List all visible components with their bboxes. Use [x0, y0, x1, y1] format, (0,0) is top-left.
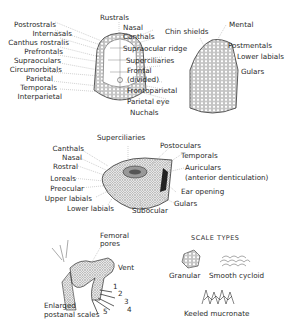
label-rustrals: Rustrals	[100, 14, 129, 22]
label-auriculars: Auriculars	[185, 164, 221, 172]
label-circumorbitals: Circumorbitals	[10, 66, 62, 74]
label-lower-labials: Lower labials	[237, 53, 284, 61]
label-parietal: Parietal	[26, 75, 53, 83]
label-temporals-lateral: Temporals	[181, 152, 218, 160]
label-toe-2: 2	[118, 290, 123, 298]
label-nasal: Nasal	[123, 24, 143, 32]
label-parietal-eye: Parietal eye	[127, 98, 169, 106]
label-toe-1: 1	[113, 283, 118, 291]
label-nasal-lateral: Nasal	[62, 154, 82, 162]
label-postmentals: Postmentals	[228, 42, 272, 50]
label-enlarged: Enlarged	[44, 302, 76, 310]
ventral-head-drawing	[190, 25, 238, 113]
label-interparietal: Interparietal	[18, 93, 62, 101]
label-chin-shields: Chin shields	[165, 28, 208, 36]
label-granular: Granular	[169, 272, 200, 280]
label-canthals: Canthals	[123, 33, 155, 41]
label-frontal-divided: (divided)	[127, 76, 159, 84]
label-rostral: Rostral	[53, 163, 78, 171]
label-internasals: Internasals	[32, 30, 72, 38]
label-subocular: Subocular	[132, 207, 168, 215]
scale-types-title: SCALE TYPES	[191, 234, 240, 242]
label-gulars: Gulars	[241, 68, 264, 76]
label-frontoparietal: Frontoparietal	[127, 87, 177, 95]
label-preocular: Preocular	[50, 185, 84, 193]
label-toe-4: 4	[127, 306, 132, 314]
label-ear-opening: Ear opening	[181, 188, 224, 196]
label-postrostrals: Postrostrals	[14, 21, 56, 29]
label-toe-5: 5	[103, 308, 108, 316]
label-canthals-lateral: Canthals	[53, 145, 85, 153]
label-gulars-lateral: Gulars	[174, 200, 197, 208]
label-canthus-rostralis: Canthus rostralis	[8, 39, 69, 47]
label-prefrontals: Prefrontals	[24, 48, 63, 56]
label-supraocular-ridge: Supraocular ridge	[123, 45, 187, 53]
label-smooth-cycloid: Smooth cycloid	[209, 272, 264, 280]
label-superciliaries: Superciliaries	[126, 57, 174, 65]
label-postanal-scales: postanal scales	[44, 311, 99, 319]
label-pores: pores	[100, 240, 120, 248]
label-anterior-denticulation: (anterior denticulation)	[185, 174, 268, 182]
label-postoculars: Postoculars	[160, 142, 201, 150]
label-nuchals: Nuchals	[130, 109, 159, 117]
label-frontal: Frontal	[127, 67, 152, 75]
label-upper-labials: Upper labials	[45, 195, 92, 203]
label-superciliaries-lateral: Superciliaries	[97, 134, 145, 142]
label-lower-labials-lateral: Lower labials	[67, 205, 114, 213]
label-mental: Mental	[229, 21, 253, 29]
label-keeled-mucronate: Keeled mucronate	[184, 310, 249, 318]
label-supraoculars: Supraoculars	[14, 57, 61, 65]
label-vent: Vent	[118, 264, 134, 272]
label-temporals: Temporals	[20, 84, 57, 92]
label-loreals: Loreals	[50, 175, 76, 183]
